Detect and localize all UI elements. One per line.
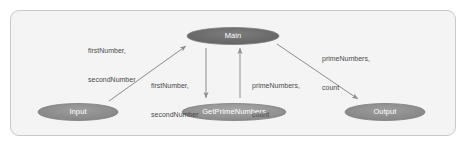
edge-label-line-2: secondNumber xyxy=(151,110,198,120)
edge-label-input-to-main: firstNumber, secondNumber xyxy=(88,27,135,103)
node-input-label: Input xyxy=(69,107,87,116)
edge-label-line-1: firstNumber, xyxy=(151,81,198,91)
node-main[interactable]: Main xyxy=(187,28,279,45)
edge-label-line-1: primeNumbers, xyxy=(322,54,370,64)
edge-label-line-2: count xyxy=(252,110,300,120)
edge-label-line-2: count xyxy=(322,83,370,93)
edge-label-getprimenumbers-to-main: primeNumbers, count xyxy=(252,62,300,138)
edge-label-main-to-getprimenumbers: firstNumber, secondNumber xyxy=(151,62,198,138)
diagram-graphics: Main Input GetPrimeNumbers Output xyxy=(0,0,467,148)
edge-label-line-1: firstNumber, xyxy=(88,46,135,56)
edge-label-line-2: secondNumber xyxy=(88,75,135,85)
node-output-label: Output xyxy=(373,107,397,116)
edge-label-line-1: primeNumbers, xyxy=(252,81,300,91)
diagram-canvas: Main Input GetPrimeNumbers Output firstN… xyxy=(0,0,467,148)
node-main-label: Main xyxy=(225,31,242,40)
node-input[interactable]: Input xyxy=(38,104,118,121)
edge-label-main-to-output: primeNumbers, count xyxy=(322,35,370,111)
